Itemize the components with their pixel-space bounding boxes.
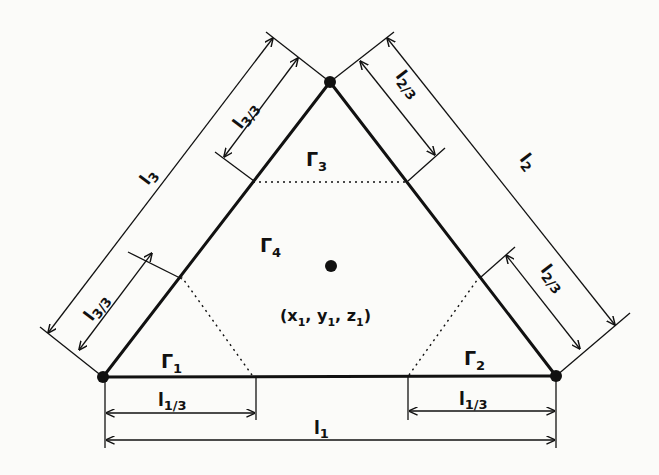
label-gamma2: Γ2 bbox=[464, 347, 485, 373]
partition-lines bbox=[181, 182, 480, 375]
label-l3-third-bottom-group: l3/3 bbox=[79, 289, 115, 326]
label-l2-third-bottom: l2/3 bbox=[534, 260, 570, 297]
region-labels: Γ3 Γ4 Γ1 Γ2 bbox=[161, 148, 485, 376]
triangle-diagram: Γ3 Γ4 Γ1 Γ2 (x1, y1, z1) l1/3 l1/3 l1 l3… bbox=[0, 0, 659, 475]
dimension-l3 bbox=[40, 32, 330, 377]
label-l2-third-bottom-group: l2/3 bbox=[534, 260, 570, 297]
label-l3-third-top-group: l3/3 bbox=[228, 97, 264, 134]
center-coordinate-label: (x1, y1, z1) bbox=[280, 306, 371, 329]
label-gamma4: Γ4 bbox=[260, 234, 281, 260]
label-l1-third-left: l1/3 bbox=[158, 390, 187, 413]
center-point bbox=[325, 260, 337, 272]
label-l1-third-right: l1/3 bbox=[459, 389, 488, 412]
label-l2-group: l2 bbox=[513, 149, 540, 175]
label-gamma3: Γ3 bbox=[306, 148, 327, 174]
label-l2-third-top-group: l2/3 bbox=[389, 66, 425, 103]
edge-left bbox=[103, 82, 330, 377]
vertices bbox=[97, 76, 562, 383]
edge-bottom bbox=[103, 376, 556, 377]
label-l3-group: l3 bbox=[135, 164, 162, 190]
label-l3: l3 bbox=[135, 164, 162, 190]
label-l2-third-top: l2/3 bbox=[389, 66, 425, 103]
triangle-edges bbox=[103, 82, 556, 377]
label-gamma1: Γ1 bbox=[161, 350, 182, 376]
label-l1: l1 bbox=[314, 418, 329, 441]
dimension-l2 bbox=[330, 32, 630, 376]
edge-right bbox=[330, 82, 556, 376]
label-l3-third-bottom: l3/3 bbox=[79, 289, 115, 326]
label-l2: l2 bbox=[513, 149, 540, 175]
label-l3-third-top: l3/3 bbox=[228, 97, 264, 134]
partition-gamma1 bbox=[181, 276, 252, 375]
